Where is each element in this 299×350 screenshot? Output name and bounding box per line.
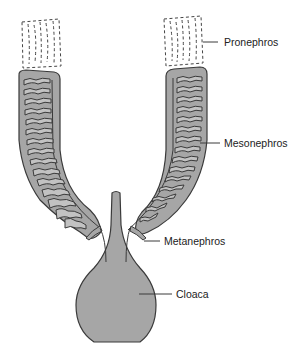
kidney-development-diagram — [0, 0, 299, 350]
label-metanephros: Metanephros — [164, 236, 225, 247]
pronephros-left — [22, 19, 61, 68]
mesonephros-left — [19, 70, 101, 238]
label-mesonephros: Mesonephros — [224, 138, 288, 149]
pronephros-right — [164, 16, 203, 66]
label-pronephros: Pronephros — [224, 37, 278, 48]
label-cloaca: Cloaca — [176, 289, 209, 300]
mesonephros-right — [128, 67, 207, 234]
